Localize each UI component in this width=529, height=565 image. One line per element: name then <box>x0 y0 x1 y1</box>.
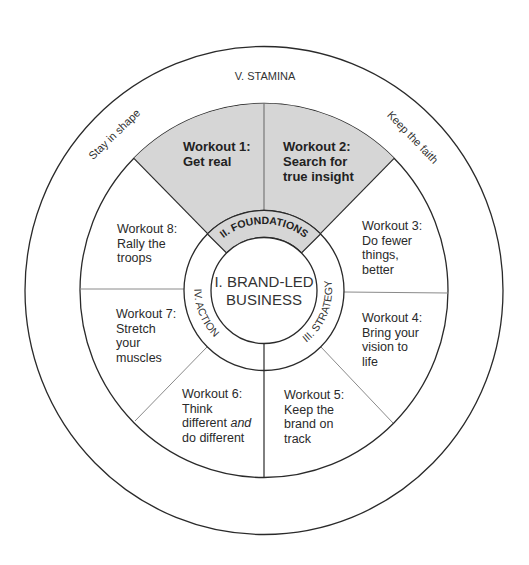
workout-2: Workout 2: Search for true insight <box>283 139 354 184</box>
outer-label-stamina: V. STAMINA <box>235 70 296 82</box>
workout-1-line-1: Get real <box>183 154 231 169</box>
brand-led-business-wheel: I. BRAND-LED BUSINESS II. FOUNDATIONS II… <box>0 0 529 565</box>
workout-7-title: Workout 7: <box>116 307 176 321</box>
workout-5-line-1: Keep the <box>284 403 334 417</box>
workout-4-line-2: vision to <box>362 340 408 354</box>
workout-7-line-1: Stretch <box>116 322 156 336</box>
workout-2-title: Workout 2: <box>283 139 351 154</box>
workout-3-line-2: things, <box>362 248 399 262</box>
workout-4-line-3: life <box>362 355 378 369</box>
workout-4-title: Workout 4: <box>362 311 422 325</box>
workout-6-line-1: Think <box>182 402 213 416</box>
workout-2-line-2: true insight <box>283 169 354 184</box>
workout-1-title: Workout 1: <box>183 139 251 154</box>
workout-6-line-2: different and <box>182 416 252 430</box>
workout-6-line-3: do different <box>182 431 245 445</box>
workout-7-line-2: your <box>116 336 140 350</box>
workout-3-line-1: Do fewer <box>362 234 412 248</box>
workout-4-line-1: Bring your <box>362 326 419 340</box>
workout-5-line-3: track <box>284 432 312 446</box>
workout-7-line-3: muscles <box>116 351 162 365</box>
workout-8-line-1: Rally the <box>117 237 166 251</box>
workout-5-title: Workout 5: <box>284 388 344 402</box>
workout-3-line-3: better <box>362 263 394 277</box>
workout-6: Workout 6: Think different and do differ… <box>182 387 252 445</box>
workout-2-line-1: Search for <box>283 154 347 169</box>
workout-8-title: Workout 8: <box>117 222 177 236</box>
center-label-line1: I. BRAND-LED <box>214 273 313 290</box>
workout-5-line-2: brand on <box>284 417 333 431</box>
center-label-line2: BUSINESS <box>226 291 302 308</box>
workout-6-title: Workout 6: <box>182 387 242 401</box>
workout-8-line-2: troops <box>117 251 152 265</box>
workout-3-title: Workout 3: <box>362 219 422 233</box>
